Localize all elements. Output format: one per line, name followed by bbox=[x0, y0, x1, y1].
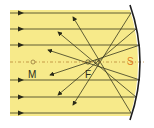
focus-label: F bbox=[85, 70, 91, 80]
vertex-label: S bbox=[127, 57, 134, 67]
center-point bbox=[31, 60, 35, 64]
optical-region bbox=[10, 10, 138, 116]
center-label: M bbox=[28, 70, 36, 80]
